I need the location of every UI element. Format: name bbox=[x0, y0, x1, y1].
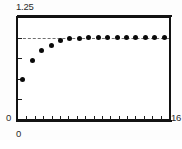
x-axis-tick bbox=[85, 116, 86, 120]
x-axis-tick bbox=[102, 116, 103, 120]
data-point bbox=[96, 35, 101, 40]
data-point bbox=[49, 43, 54, 48]
y-axis-tick bbox=[18, 38, 22, 39]
x-axis-line bbox=[16, 120, 172, 122]
x-axis-tick bbox=[119, 116, 120, 120]
y-axis-max-label: 1.25 bbox=[16, 2, 34, 12]
x-axis-tick bbox=[161, 116, 162, 120]
x-axis-tick bbox=[77, 116, 78, 120]
x-axis-min-label: 0 bbox=[16, 129, 21, 139]
x-axis-tick bbox=[43, 116, 44, 120]
page-margin bbox=[0, 140, 182, 149]
y-axis-tick bbox=[18, 99, 22, 100]
data-point bbox=[77, 36, 82, 41]
plot-area bbox=[17, 17, 170, 120]
x-axis-tick bbox=[152, 116, 153, 120]
data-point bbox=[162, 35, 167, 40]
data-point bbox=[143, 35, 148, 40]
y-axis-tick bbox=[18, 58, 22, 59]
x-axis-tick bbox=[26, 116, 27, 120]
x-axis-tick bbox=[135, 116, 136, 120]
data-point bbox=[115, 35, 120, 40]
chart-figure: 1.25 0 0 16 bbox=[0, 0, 182, 149]
x-axis-tick bbox=[110, 116, 111, 120]
x-axis-tick bbox=[60, 116, 61, 120]
x-axis-tick bbox=[127, 116, 128, 120]
x-axis-max-label: 16 bbox=[171, 113, 181, 123]
x-axis-tick bbox=[68, 116, 69, 120]
x-axis-tick bbox=[94, 116, 95, 120]
x-axis-tick bbox=[52, 116, 53, 120]
data-point bbox=[30, 58, 35, 63]
y-axis-min-label: 0 bbox=[6, 113, 11, 123]
x-axis-tick bbox=[35, 116, 36, 120]
x-axis-tick bbox=[144, 116, 145, 120]
